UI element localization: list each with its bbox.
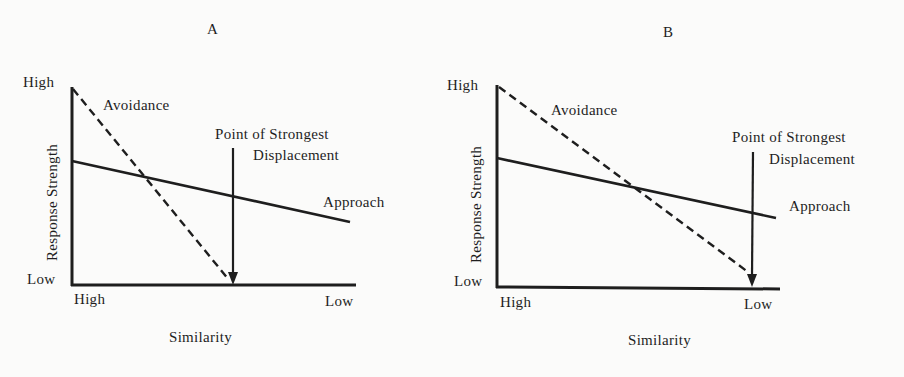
y-tick-low: Low [454, 274, 482, 289]
annotation-line2: Displacement [253, 148, 339, 163]
y-tick-high: High [23, 75, 54, 90]
x-tick-low: Low [325, 294, 353, 309]
y-axis-title: Response Strength [469, 146, 484, 263]
x-axis-line [496, 287, 780, 289]
x-tick-high: High [74, 292, 105, 307]
y-tick-high: High [447, 78, 478, 93]
arrowhead-icon [747, 274, 757, 287]
avoidance-label: Avoidance [551, 103, 618, 118]
avoidance-line [73, 89, 229, 280]
annotation-line1: Point of Strongest [732, 130, 846, 145]
panel-title-a: A [207, 22, 218, 37]
arrowhead-icon [228, 272, 238, 285]
approach-label: Approach [323, 195, 385, 210]
chart-b-plot [452, 0, 904, 377]
x-axis-title: Similarity [628, 333, 691, 348]
x-tick-high: High [500, 295, 531, 310]
approach-label: Approach [789, 199, 851, 214]
chart-a-plot [0, 0, 452, 377]
avoidance-line [499, 87, 748, 272]
panel-b: B High Low Response Strength High Low Si… [452, 0, 904, 377]
panel-a: A High Low Response Strength High Low Si… [0, 0, 452, 377]
annotation-line1: Point of Strongest [215, 127, 329, 142]
panel-title-b: B [663, 25, 673, 40]
y-tick-low: Low [27, 272, 55, 287]
y-axis-title: Response Strength [45, 144, 60, 261]
x-tick-low: Low [744, 297, 772, 312]
x-axis-title: Similarity [169, 330, 232, 345]
avoidance-label: Avoidance [103, 98, 170, 113]
displacement-arrow-shaft [752, 152, 753, 277]
annotation-line2: Displacement [769, 152, 855, 167]
approach-line [72, 161, 350, 222]
approach-line [497, 158, 776, 218]
